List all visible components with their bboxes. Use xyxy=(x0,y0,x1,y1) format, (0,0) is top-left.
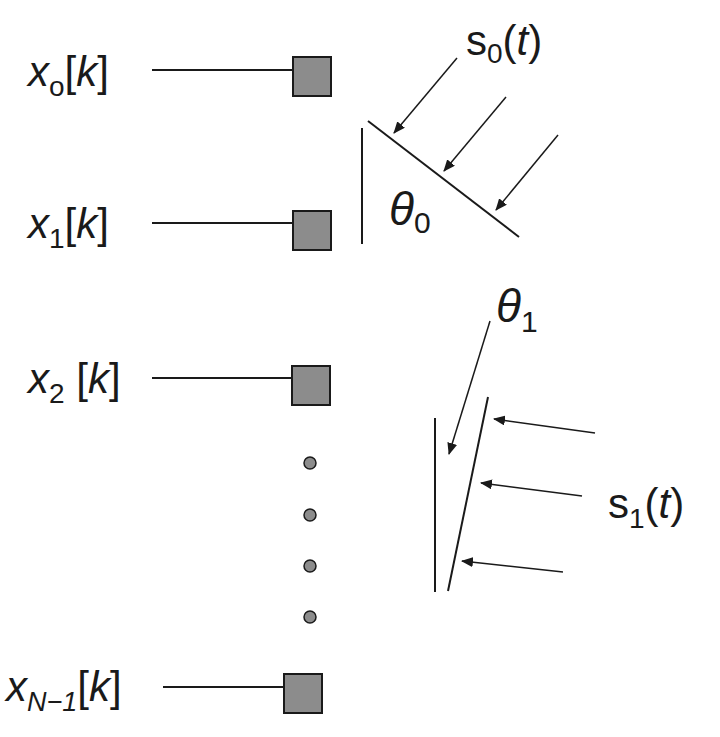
dot-icon xyxy=(304,457,316,469)
theta-1-label: θ1 xyxy=(496,280,538,338)
ellipsis-dots xyxy=(304,457,316,623)
source-0-label: s0(t) xyxy=(466,17,542,69)
sensor-0-label: xo[k] xyxy=(26,48,109,102)
sensor-1: x1[k] xyxy=(26,200,331,254)
arrow-icon xyxy=(449,321,490,454)
sensor-n-minus-1-label: xN−1[k] xyxy=(4,663,122,717)
dot-icon xyxy=(304,509,316,521)
sensor-2: x2 [k] xyxy=(26,355,330,409)
arrow-icon xyxy=(496,135,558,210)
arrow-icon xyxy=(494,419,595,433)
arrow-icon xyxy=(444,97,506,171)
dot-icon xyxy=(304,611,316,623)
sensor-1-square xyxy=(293,211,331,250)
theta-0-label: θ0 xyxy=(389,183,431,239)
sensor-2-label: x2 [k] xyxy=(26,355,121,409)
source-1-label: s1(t) xyxy=(608,480,684,534)
sensor-0-square xyxy=(293,57,331,96)
arrow-icon xyxy=(462,561,563,572)
sensor-2-square xyxy=(292,366,330,405)
source-1: θ1 s1(t) xyxy=(435,280,684,592)
sensor-n-minus-1-square xyxy=(284,674,322,713)
dot-icon xyxy=(304,560,316,572)
arrow-icon xyxy=(394,58,457,133)
sensor-n-minus-1: xN−1[k] xyxy=(4,663,322,717)
source-0: s0(t) θ0 xyxy=(362,17,558,244)
sensor-1-label: x1[k] xyxy=(26,200,109,254)
array-diagram: xo[k] x1[k] x2 [k] xN−1[k] s0(t) θ0 xyxy=(0,0,720,737)
arrow-icon xyxy=(481,483,582,496)
sensor-0: xo[k] xyxy=(26,48,331,102)
